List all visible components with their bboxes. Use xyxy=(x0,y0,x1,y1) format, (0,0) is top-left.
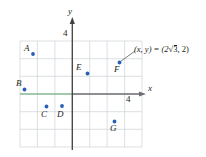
x-axis-tick-4: 4 xyxy=(126,95,131,104)
callout-prefix: (x, y) = (2 xyxy=(134,44,169,54)
point-label-F: F xyxy=(114,65,120,74)
x-axis-arrowhead xyxy=(139,91,146,96)
callout-suffix: , 2) xyxy=(177,44,188,54)
callout-leader-line xyxy=(121,51,136,62)
point-E xyxy=(86,72,90,76)
point-label-A: A xyxy=(24,44,30,53)
y-axis-tick-4: 4 xyxy=(63,29,68,38)
y-axis-arrowhead xyxy=(70,17,75,24)
point-label-D: D xyxy=(57,110,64,119)
square-root-symbol: √3 xyxy=(169,45,178,54)
plot-canvas xyxy=(0,0,206,157)
point-label-B: B xyxy=(16,79,22,88)
coordinate-callout: (x, y) = (2√3, 2) xyxy=(134,45,189,54)
point-B xyxy=(23,88,27,92)
point-label-E: E xyxy=(76,63,82,72)
coordinate-plane-figure: A B C D E F G y x 4 4 (x, y) = (2√3, 2) xyxy=(0,0,206,157)
point-label-G: G xyxy=(110,124,117,133)
point-D xyxy=(60,104,64,108)
point-label-C: C xyxy=(41,110,47,119)
y-axis-label: y xyxy=(68,7,72,16)
point-C xyxy=(45,105,49,109)
x-axis-label: x xyxy=(148,84,152,93)
point-A xyxy=(31,52,35,56)
